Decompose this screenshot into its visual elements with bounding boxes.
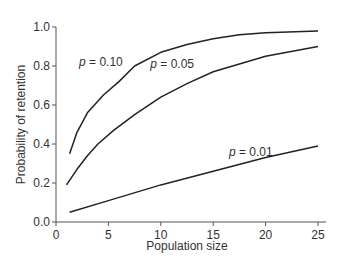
y-tick-label: 0.4: [33, 137, 50, 151]
series-annotation-2: p = 0.01: [228, 145, 273, 159]
x-tick-label: 0: [53, 228, 60, 242]
x-tick-label: 20: [259, 228, 273, 242]
y-tick-label: 0.2: [33, 176, 50, 190]
series-annotation-0: p = 0.10: [78, 55, 123, 69]
chart-canvas: 05101520250.00.20.40.60.81.0Population s…: [0, 0, 347, 264]
y-tick-label: 0.8: [33, 59, 50, 73]
x-tick-label: 5: [105, 228, 112, 242]
y-axis-label: Probability of retention: [14, 65, 28, 184]
y-tick-label: 1.0: [33, 20, 50, 34]
series-annotation-1: p = 0.05: [149, 57, 194, 71]
x-tick-label: 25: [311, 228, 325, 242]
retention-chart: 05101520250.00.20.40.60.81.0Population s…: [0, 0, 347, 264]
y-tick-label: 0.0: [33, 215, 50, 229]
y-tick-label: 0.6: [33, 98, 50, 112]
series-line-2: [70, 146, 318, 212]
x-axis-label: Population size: [146, 239, 228, 253]
